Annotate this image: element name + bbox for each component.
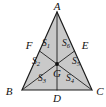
region-label-s1-sub: 1 [47, 42, 50, 49]
centroid-label-g: G [53, 67, 61, 79]
midpoint-label-d: D [52, 92, 61, 104]
vertex-label-c: C [96, 85, 104, 97]
midpoint-label-f: F [25, 39, 33, 51]
geometry-figure: A B C F E D G S1 S2 S3 S4 S5 [0, 0, 106, 107]
vertex-label-a: A [53, 0, 61, 12]
midpoint-label-e: E [81, 39, 89, 51]
centroid-point-g [55, 62, 59, 66]
triangle-median-diagram: A B C F E D G S1 S2 S3 S4 S5 [0, 0, 106, 107]
region-label-s5: S5 [72, 56, 81, 67]
vertex-label-b: B [6, 85, 13, 97]
